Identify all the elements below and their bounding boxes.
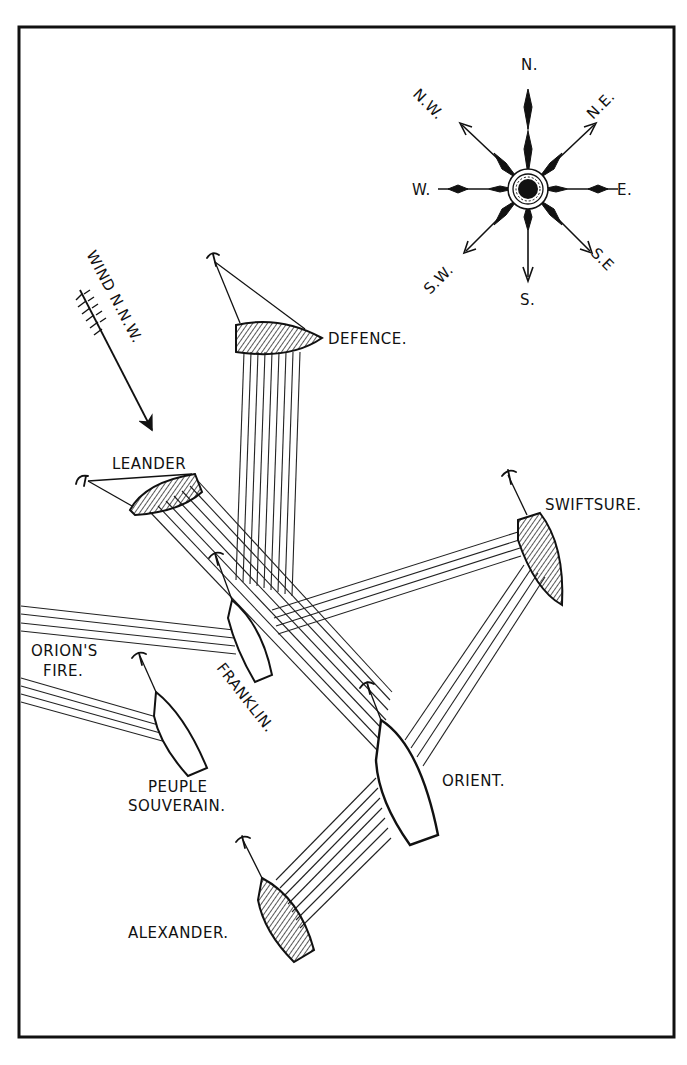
ship-peuple-souverain bbox=[132, 653, 207, 776]
compass-label-e: E. bbox=[617, 181, 632, 199]
compass-label-w: W. bbox=[412, 181, 431, 199]
anchor-icon bbox=[76, 476, 88, 486]
ship-label-peuple-line2: SOUVERAIN. bbox=[128, 797, 226, 815]
wind-label: WIND N.N.W. bbox=[82, 247, 146, 346]
fire-lines-orion-peuple bbox=[21, 678, 166, 742]
compass-label-ne: N.E. bbox=[583, 87, 619, 123]
fire-lines-swiftsure-franklin bbox=[272, 532, 521, 634]
ship-alexander bbox=[236, 836, 314, 962]
ship-label-orient: ORIENT. bbox=[442, 772, 505, 790]
fire-lines-leander bbox=[150, 481, 392, 750]
anchor-icon bbox=[502, 470, 516, 484]
anchor-icon bbox=[236, 836, 250, 848]
fire-lines-swiftsure-orient bbox=[405, 565, 545, 766]
ship-label-alexander: ALEXANDER. bbox=[128, 924, 229, 942]
compass-label-s: S. bbox=[520, 291, 535, 309]
label-orions-fire-line2: FIRE. bbox=[43, 662, 83, 680]
ship-label-peuple-line1: PEUPLE bbox=[148, 778, 207, 796]
ship-defence bbox=[207, 253, 322, 354]
anchor-icon bbox=[132, 653, 146, 665]
compass-label-se: S.E bbox=[587, 244, 618, 275]
diagram-frame bbox=[19, 27, 674, 1037]
label-orions-fire-line1: ORION'S bbox=[31, 642, 98, 660]
ship-leander bbox=[76, 474, 202, 515]
ship-label-swiftsure: SWIFTSURE. bbox=[545, 496, 641, 514]
compass-label-sw: S.W. bbox=[420, 261, 457, 298]
ship-label-defence: DEFENCE. bbox=[328, 330, 407, 348]
ship-franklin bbox=[209, 553, 272, 682]
ship-orient bbox=[360, 682, 438, 845]
ship-label-leander: LEANDER bbox=[112, 455, 186, 473]
battle-diagram: N. N.E. E. S.E S. S.W. W. N.W. WIND N.N.… bbox=[0, 0, 687, 1065]
compass-label-nw: N.W. bbox=[409, 85, 447, 123]
compass-label-n: N. bbox=[521, 56, 538, 74]
